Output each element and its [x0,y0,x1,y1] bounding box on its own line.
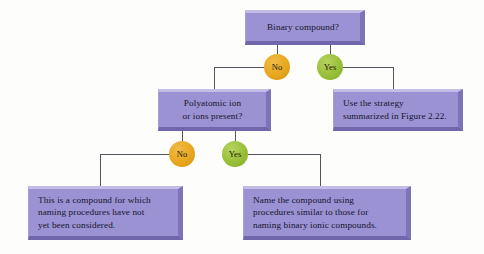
node-use-strategy[interactable]: Use the strategy summarized in Figure 2.… [333,89,463,131]
node-not-considered[interactable]: This is a compound for which naming proc… [28,186,183,240]
node-polyatomic-question[interactable]: Polyatomic ion or ions present? [158,89,271,131]
node-binary-compound-question[interactable]: Binary compound? [245,10,365,45]
flowchart-diagram: Binary compound? No Yes Polyatomic ion o… [0,0,484,254]
node-polyatomic-line1: Polyatomic ion [184,98,241,108]
branch-root-yes[interactable]: Yes [317,54,343,80]
node-not-considered-text: This is a compound for which naming proc… [38,194,151,231]
node-similar-procedures-line1: Name the compound using [253,195,354,205]
node-use-strategy-line1: Use the strategy [343,98,404,108]
connector-no-to-not-considered [100,154,169,186]
node-use-strategy-line2: summarized in Figure 2.22. [343,111,447,121]
branch-root-no[interactable]: No [264,54,290,80]
node-polyatomic-line2: or ions present? [183,111,243,121]
node-polyatomic-text: Polyatomic ion or ions present? [183,97,243,122]
branch-root-no-label: No [272,62,283,72]
connector-no-to-polyatomic [214,67,264,89]
connector-yes-to-similar [248,154,320,186]
node-not-considered-line1: This is a compound for which [38,195,151,205]
branch-polyatomic-yes-label: Yes [229,149,242,159]
node-similar-procedures-line3: naming binary ionic compounds. [253,220,377,230]
branch-root-yes-label: Yes [324,62,337,72]
branch-polyatomic-yes[interactable]: Yes [222,141,248,167]
node-similar-procedures-line2: procedures similar to those for [253,207,368,217]
connector-yes-to-strategy [343,67,393,89]
node-binary-compound-label: Binary compound? [267,21,339,33]
branch-polyatomic-no-label: No [177,149,188,159]
node-not-considered-line2: naming procedures have not [38,207,144,217]
node-similar-procedures-text: Name the compound using procedures simil… [253,194,377,231]
node-similar-procedures[interactable]: Name the compound using procedures simil… [243,186,411,240]
node-use-strategy-text: Use the strategy summarized in Figure 2.… [343,97,447,122]
node-not-considered-line3: yet been considered. [38,220,115,230]
branch-polyatomic-no[interactable]: No [169,141,195,167]
